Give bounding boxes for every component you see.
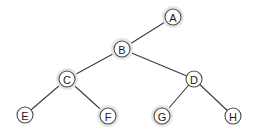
tree-diagram-svg: ABCDEFGH bbox=[0, 0, 257, 137]
node-circle-g[interactable] bbox=[154, 108, 170, 124]
node-circle-a[interactable] bbox=[165, 9, 181, 25]
tree-node-g[interactable]: G bbox=[151, 105, 173, 127]
node-circle-c[interactable] bbox=[59, 71, 75, 87]
tree-node-a[interactable]: A bbox=[162, 6, 184, 28]
node-circle-f[interactable] bbox=[100, 108, 116, 124]
edges-layer bbox=[25, 17, 233, 116]
nodes-layer: ABCDEFGH bbox=[17, 6, 241, 127]
tree-edge-b-d bbox=[122, 49, 194, 79]
tree-diagram-canvas: ABCDEFGH bbox=[0, 0, 257, 137]
node-circle-h[interactable] bbox=[225, 108, 241, 124]
tree-node-c[interactable]: C bbox=[56, 68, 78, 90]
node-circle-e[interactable] bbox=[17, 107, 33, 123]
node-circle-b[interactable] bbox=[114, 41, 130, 57]
tree-node-h[interactable]: H bbox=[225, 108, 241, 124]
tree-node-e[interactable]: E bbox=[17, 107, 33, 123]
node-circle-d[interactable] bbox=[186, 71, 202, 87]
tree-node-b[interactable]: B bbox=[111, 38, 133, 60]
tree-node-d[interactable]: D bbox=[186, 71, 202, 87]
tree-node-f[interactable]: F bbox=[97, 105, 119, 127]
